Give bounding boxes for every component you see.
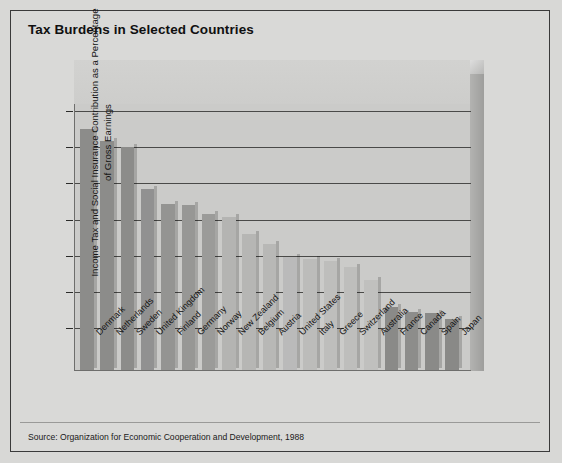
bar-side-shadow [134,144,137,368]
y-tick-mark-40 [66,111,73,112]
y-axis-title: Income Tax and Social Insurance Contribu… [89,8,114,278]
bar-side-shadow [236,214,239,368]
y-tick-mark-25 [66,220,73,221]
backdrop-corner [470,60,484,74]
bar-side-shadow [256,231,259,368]
bar-greece [324,261,338,371]
backdrop-top-slab [74,60,470,104]
y-tick-mark-30 [66,183,73,184]
y-tick-mark-20 [66,256,73,257]
bar-united-kingdom [141,189,155,371]
bar-side-shadow [215,211,218,368]
bar-finland [161,204,175,371]
chart-title: Tax Burdens in Selected Countries [28,22,254,37]
bar-germany [182,205,196,371]
figure-root: Tax Burdens in Selected Countries Denmar… [0,0,562,463]
bar-belgium [242,234,256,371]
plot-area: DenmarkNetherlandsSwedenUnited KingdomFi… [74,60,484,372]
bar-side-shadow [276,241,279,368]
y-tick-mark-10 [66,328,73,329]
bar-sweden [121,147,135,371]
y-tick-mark-15 [66,292,73,293]
y-tick-mark-35 [66,147,73,148]
source-divider [20,422,540,423]
bar-side-shadow [154,186,157,368]
bar-new-zealand [222,217,236,371]
source-note: Source: Organization for Economic Cooper… [28,432,304,442]
bar-side-shadow [175,201,178,368]
bar-side-shadow [114,138,117,368]
gridline-40 [75,111,471,112]
axis-baseline [75,370,471,371]
bar-side-shadow [337,258,340,368]
